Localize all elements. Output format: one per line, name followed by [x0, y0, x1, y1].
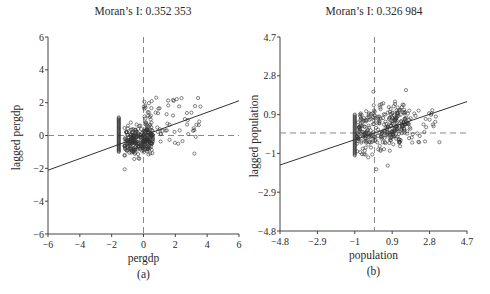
- x-tick-label: 6: [237, 239, 242, 250]
- data-point: [171, 114, 174, 117]
- chart-title: Moran’s I: 0.352 353: [94, 5, 191, 17]
- data-point: [198, 120, 201, 123]
- x-tick-label: −4: [75, 239, 86, 250]
- data-point: [408, 109, 411, 112]
- data-point: [379, 108, 382, 111]
- data-point: [378, 144, 381, 147]
- y-tick-label: 4.7: [264, 32, 277, 43]
- y-tick-label: 2.8: [264, 70, 277, 81]
- chart-title: Moran’s I: 0.326 984: [325, 5, 422, 17]
- x-tick-label: 0: [141, 239, 146, 250]
- data-point: [123, 126, 126, 129]
- data-point: [438, 141, 441, 144]
- data-point: [123, 168, 126, 171]
- data-point: [382, 148, 385, 151]
- data-point: [197, 96, 200, 99]
- data-point: [147, 102, 150, 105]
- data-point: [404, 89, 407, 92]
- y-tick-label: −1: [265, 148, 276, 159]
- data-point: [423, 140, 426, 143]
- data-point: [185, 111, 188, 114]
- data-point: [425, 126, 428, 129]
- panel-label: (b): [367, 265, 381, 278]
- x-tick-label: −6: [43, 239, 54, 250]
- y-tick-label: −4: [33, 196, 44, 207]
- data-point: [181, 140, 184, 143]
- y-tick-label: 2: [39, 97, 44, 108]
- data-point: [418, 134, 421, 137]
- data-point: [387, 106, 390, 109]
- data-point: [193, 152, 196, 155]
- data-point: [369, 146, 372, 149]
- data-point: [190, 111, 193, 114]
- data-point: [150, 107, 153, 110]
- data-point: [167, 104, 170, 107]
- data-point: [428, 118, 431, 121]
- y-tick-label: −2: [33, 163, 44, 174]
- panel-b: Moran’s I: 0.326 984−4.8−2.9−10.92.84.74…: [248, 5, 473, 278]
- x-tick-label: −1: [349, 236, 360, 247]
- data-point: [422, 123, 425, 126]
- y-tick-label: 6: [39, 32, 44, 43]
- moran-scatter-figure: Moran’s I: 0.352 353−6−4−202466420−2−4−6…: [0, 0, 490, 294]
- x-tick-label: 0.9: [386, 236, 399, 247]
- y-tick-label: 4: [39, 64, 44, 75]
- data-point: [172, 98, 175, 101]
- x-axis-label: population: [349, 249, 398, 262]
- data-point: [129, 121, 132, 124]
- data-point: [137, 138, 140, 141]
- y-axis-label: lagged population: [248, 94, 261, 177]
- data-point: [199, 105, 202, 108]
- data-point: [417, 109, 420, 112]
- y-tick-label: −6: [33, 229, 44, 240]
- data-point: [173, 141, 176, 144]
- data-point: [150, 100, 153, 103]
- data-point: [372, 104, 375, 107]
- y-tick-label: −4.8: [258, 226, 276, 237]
- data-point: [155, 96, 158, 99]
- data-point: [156, 126, 159, 129]
- data-point: [392, 143, 395, 146]
- data-point: [180, 97, 183, 100]
- x-axis-label: pergdp: [128, 252, 160, 265]
- data-point: [363, 149, 366, 152]
- scatter-points: [117, 96, 202, 171]
- data-point: [144, 117, 147, 120]
- data-point: [173, 130, 176, 133]
- data-point: [375, 168, 378, 171]
- x-tick-label: 4: [205, 239, 210, 250]
- y-axis-label: lagged pergdp: [10, 105, 23, 171]
- x-tick-label: 2.8: [423, 236, 436, 247]
- data-point: [165, 113, 168, 116]
- data-point: [431, 109, 434, 112]
- scatter-points: [353, 89, 441, 171]
- data-point: [159, 140, 162, 143]
- data-point: [434, 115, 437, 118]
- y-tick-label: 0.9: [264, 109, 277, 120]
- x-tick-label: −2: [106, 239, 117, 250]
- data-point: [167, 99, 170, 102]
- data-point: [386, 164, 389, 167]
- data-point: [193, 105, 196, 108]
- data-point: [133, 157, 136, 160]
- y-tick-label: 0: [39, 130, 44, 141]
- data-point: [138, 157, 141, 160]
- data-point: [388, 149, 391, 152]
- x-tick-label: 4.7: [461, 236, 474, 247]
- data-point: [143, 115, 146, 118]
- data-point: [367, 156, 370, 159]
- panel-a: Moran’s I: 0.352 353−6−4−202466420−2−4−6…: [10, 5, 242, 281]
- data-point: [424, 117, 427, 120]
- data-point: [168, 138, 171, 141]
- data-point: [361, 147, 364, 150]
- data-point: [393, 100, 396, 103]
- data-point: [406, 112, 409, 115]
- data-point: [177, 142, 180, 145]
- data-point: [371, 153, 374, 156]
- data-point: [178, 129, 181, 132]
- data-point: [194, 135, 197, 138]
- data-point: [411, 141, 414, 144]
- data-point: [434, 120, 437, 123]
- data-point: [175, 98, 178, 101]
- y-tick-label: −2.9: [258, 187, 276, 198]
